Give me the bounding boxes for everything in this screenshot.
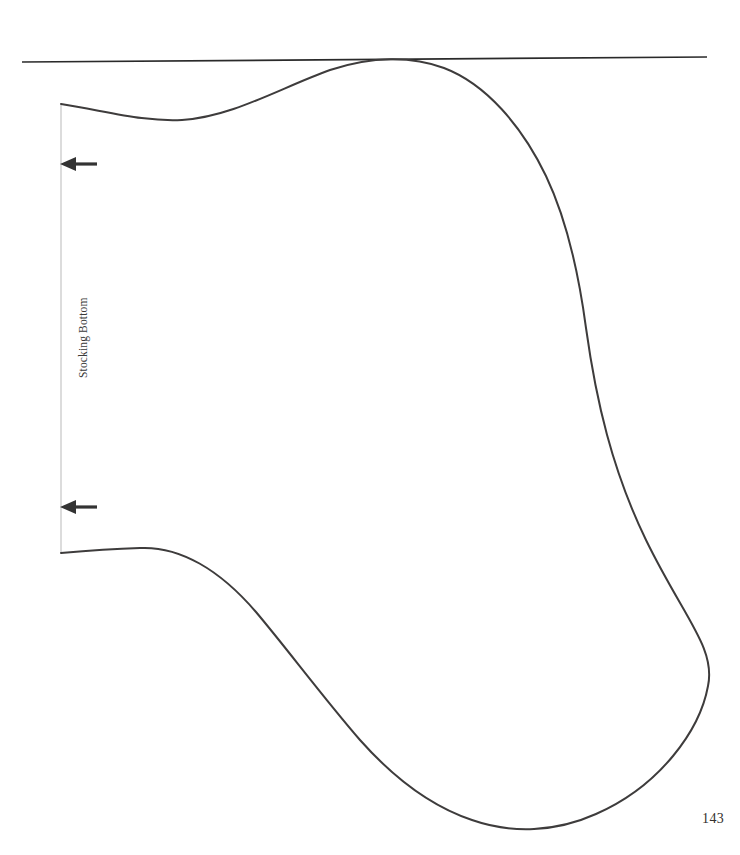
arrow-marker-top [60, 157, 97, 171]
page-number: 143 [702, 811, 724, 827]
stocking-pattern-diagram [0, 0, 740, 855]
pattern-page: Stocking Bottom 143 [0, 0, 740, 855]
stocking-outline-path [61, 59, 709, 829]
arrow-marker-bottom [60, 500, 97, 514]
stocking-bottom-label: Stocking Bottom [78, 297, 90, 378]
